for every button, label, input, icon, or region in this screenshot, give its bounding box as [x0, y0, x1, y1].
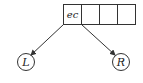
arrow-to-right [82, 25, 116, 56]
arrow-to-left [31, 25, 64, 56]
node-left-label: L [21, 56, 29, 69]
cell-label-ec: ec [67, 9, 79, 20]
record-box: ec [64, 5, 136, 25]
node-right-label: R [116, 56, 125, 69]
diagram-canvas: ec L R [0, 0, 143, 83]
node-right: R [113, 54, 130, 71]
node-left: L [18, 54, 35, 71]
